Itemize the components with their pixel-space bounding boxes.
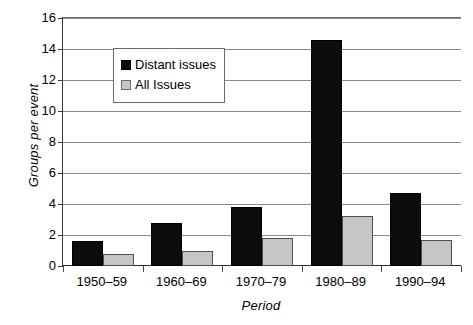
x-tick-mark — [461, 266, 462, 272]
bar — [262, 238, 293, 266]
x-tick-mark — [302, 266, 303, 272]
bar — [72, 241, 103, 266]
bar-group — [311, 18, 373, 266]
bar — [311, 40, 342, 266]
y-tick-mark — [58, 111, 63, 112]
y-tick-mark — [58, 235, 63, 236]
legend-swatch-icon — [121, 80, 131, 90]
bar-group — [390, 18, 452, 266]
y-tick-label: 0 — [20, 259, 56, 272]
y-tick-mark — [58, 49, 63, 50]
y-tick-label: 8 — [20, 135, 56, 148]
x-tick-mark — [63, 266, 64, 272]
x-tick-mark — [143, 266, 144, 272]
legend-swatch-icon — [121, 60, 131, 70]
y-tick-label: 16 — [20, 11, 56, 24]
legend-entry: Distant issues — [121, 55, 216, 75]
legend-entry: All Issues — [121, 75, 216, 95]
bar — [342, 216, 373, 266]
bar-group — [231, 18, 293, 266]
y-tick-mark — [58, 80, 63, 81]
y-tick-label: 2 — [20, 228, 56, 241]
bar — [151, 223, 182, 266]
bar-chart-figure: Groups per event 0246810121416 1950–5919… — [0, 0, 473, 325]
x-tick-mark — [381, 266, 382, 272]
bar — [421, 240, 452, 266]
y-tick-mark — [58, 173, 63, 174]
legend-label: All Issues — [135, 78, 191, 92]
y-tick-label: 6 — [20, 166, 56, 179]
y-tick-label: 4 — [20, 197, 56, 210]
bar — [231, 207, 262, 266]
x-tick-label: 1990–94 — [395, 274, 446, 289]
y-axis-tick-labels: 0246810121416 — [20, 0, 56, 325]
y-tick-mark — [58, 204, 63, 205]
y-tick-mark — [58, 18, 63, 19]
bar — [390, 193, 421, 266]
x-tick-label: 1960–69 — [156, 274, 207, 289]
bar — [103, 254, 134, 266]
x-axis-tick-labels: 1950–591960–691970–791980–891990–94 — [62, 274, 460, 294]
y-tick-label: 14 — [20, 42, 56, 55]
chart-legend: Distant issuesAll Issues — [113, 48, 225, 103]
x-axis-title: Period — [62, 298, 460, 313]
x-tick-mark — [222, 266, 223, 272]
x-tick-label: 1970–79 — [236, 274, 287, 289]
bar — [182, 251, 213, 267]
y-tick-label: 10 — [20, 104, 56, 117]
x-tick-label: 1980–89 — [315, 274, 366, 289]
x-tick-label: 1950–59 — [76, 274, 127, 289]
y-tick-mark — [58, 142, 63, 143]
y-tick-label: 12 — [20, 73, 56, 86]
legend-label: Distant issues — [135, 58, 216, 72]
